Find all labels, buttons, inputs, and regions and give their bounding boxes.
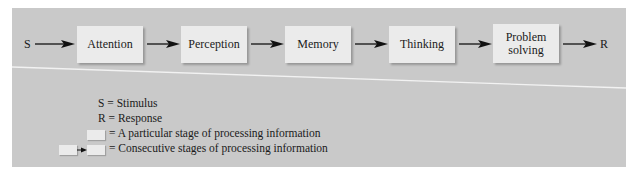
stage-perception: Perception xyxy=(181,26,247,63)
legend-text: = A particular stage of processing infor… xyxy=(109,127,321,139)
stage-label: Problem solving xyxy=(501,31,551,57)
legend-item-stimulus: S = Stimulus xyxy=(98,97,158,109)
diagram-panel: S Attention Perception Memory Thinking P… xyxy=(12,8,626,167)
response-label: R xyxy=(600,37,608,52)
legend-stage-box-icon xyxy=(59,145,77,155)
legend-item-response: R = Response xyxy=(98,112,162,124)
legend-symbol: S xyxy=(98,97,104,109)
arrow-icon xyxy=(147,44,180,46)
stage-problem-solving: Problem solving xyxy=(493,24,559,63)
legend-stage-box-icon xyxy=(87,145,105,155)
legend-item-consecutive: = Consecutive stages of processing infor… xyxy=(109,142,328,154)
stage-label: Attention xyxy=(87,38,132,51)
stimulus-label: S xyxy=(24,37,31,52)
legend-text: = Response xyxy=(109,112,162,124)
legend-stage-box-icon xyxy=(87,130,105,140)
arrow-icon xyxy=(355,44,388,46)
stage-label: Thinking xyxy=(400,38,444,51)
arrow-icon xyxy=(251,44,284,46)
arrow-icon xyxy=(563,44,597,46)
legend-item-stage: = A particular stage of processing infor… xyxy=(109,127,321,139)
stage-label: Perception xyxy=(188,38,239,51)
arrow-icon xyxy=(459,44,492,46)
stage-attention: Attention xyxy=(77,26,143,63)
stage-thinking: Thinking xyxy=(389,26,455,63)
legend-arrow-icon xyxy=(77,146,87,154)
legend-text: = Consecutive stages of processing infor… xyxy=(109,142,328,154)
legend-symbol: R xyxy=(98,112,106,124)
stage-label: Memory xyxy=(297,38,338,51)
legend-text: = Stimulus xyxy=(107,97,157,109)
stage-memory: Memory xyxy=(285,26,351,63)
arrow-icon xyxy=(35,44,75,46)
